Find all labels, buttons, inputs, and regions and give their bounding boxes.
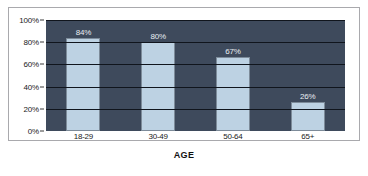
- bar-column: 67%: [216, 20, 250, 131]
- y-tick-mark: [40, 86, 44, 87]
- bar-column: 26%: [291, 20, 325, 131]
- y-tick-mark: [40, 42, 44, 43]
- y-tick-mark: [40, 131, 44, 132]
- y-tick-label: 100%: [19, 16, 39, 25]
- plot-area: 84%80%67%26%: [46, 20, 345, 131]
- gridline: [46, 42, 345, 43]
- y-tick-mark: [40, 108, 44, 109]
- gridline: [46, 87, 345, 88]
- gridline: [46, 64, 345, 65]
- bar-column: 84%: [66, 20, 100, 131]
- x-tick-label: 30-49: [148, 132, 167, 141]
- bar: [291, 102, 325, 131]
- bar: [216, 57, 250, 131]
- y-tick-mark: [40, 64, 44, 65]
- bar-value-label: 80%: [150, 32, 165, 41]
- bar-column: 80%: [141, 20, 175, 131]
- gridline: [46, 20, 345, 21]
- y-tick-label: 80%: [24, 38, 39, 47]
- x-tick-label: 18-29: [74, 132, 93, 141]
- bar-value-label: 26%: [300, 92, 315, 101]
- bar-value-label: 67%: [225, 47, 240, 56]
- gridline: [46, 109, 345, 110]
- y-axis: 0%20%40%60%80%100%: [8, 20, 44, 131]
- y-tick-label: 40%: [24, 82, 39, 91]
- y-tick-label: 60%: [24, 60, 39, 69]
- y-tick-label: 0%: [28, 127, 39, 136]
- x-axis-title: AGE: [0, 150, 368, 160]
- x-axis: 18-2930-4950-6465+: [46, 132, 345, 146]
- bar: [66, 38, 100, 131]
- y-tick-label: 20%: [24, 104, 39, 113]
- bar-series: 84%80%67%26%: [46, 20, 345, 131]
- x-tick-label: 50-64: [223, 132, 242, 141]
- bar-value-label: 84%: [76, 28, 91, 37]
- x-tick-label: 65+: [301, 132, 314, 141]
- chart-figure: 0%20%40%60%80%100% 84%80%67%26% 18-2930-…: [0, 0, 368, 176]
- y-tick-mark: [40, 20, 44, 21]
